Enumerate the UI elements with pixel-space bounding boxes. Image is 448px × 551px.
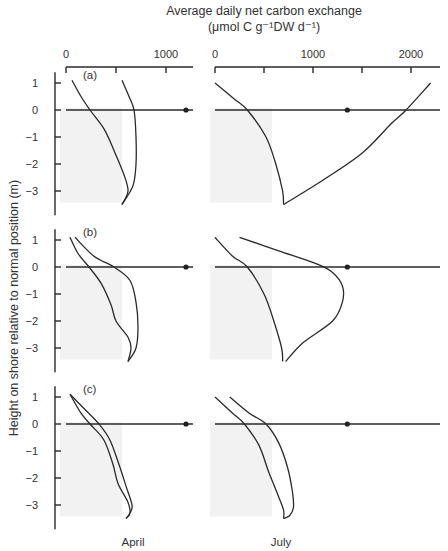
y-tick-label: −3: [25, 342, 38, 354]
y-tick-label: −1: [25, 131, 38, 143]
marker-dot: [345, 107, 350, 112]
marker-dot: [345, 421, 350, 426]
marker-dot: [183, 107, 188, 112]
marker-dot: [183, 264, 188, 269]
panel-a: 10−1−2−3(a): [25, 69, 440, 215]
shaded-region: [60, 108, 122, 203]
shaded-region: [210, 265, 272, 360]
column-label-july: July: [271, 536, 292, 548]
y-tick-label: −2: [25, 158, 38, 170]
marker-dot: [183, 421, 188, 426]
y-tick-label: 0: [32, 418, 38, 430]
x-tick-label: 0: [212, 48, 218, 60]
y-tick-label: 1: [32, 77, 38, 89]
x-tick-label: 1000: [301, 48, 325, 60]
y-tick-label: −3: [25, 499, 38, 511]
panel-label: (c): [83, 383, 97, 395]
marker-dot: [345, 264, 350, 269]
y-tick-label: 1: [32, 391, 38, 403]
chart-canvas: Height on shore relative to normal posit…: [0, 0, 448, 551]
x-tick-label: 1000: [154, 48, 178, 60]
shaded-region: [60, 422, 122, 517]
shaded-region: [210, 422, 272, 517]
panel-label: (a): [83, 69, 97, 81]
panel-label: (b): [83, 226, 97, 238]
panel-b: 10−1−2−3(b): [25, 226, 440, 372]
april-outer-curve: [122, 80, 136, 204]
y-tick-label: −1: [25, 445, 38, 457]
shaded-region: [210, 108, 272, 203]
y-tick-label: −1: [25, 288, 38, 300]
x-axis-july: 0 1000 2000: [212, 48, 440, 73]
y-tick-label: 0: [32, 261, 38, 273]
y-tick-label: −2: [25, 472, 38, 484]
y-tick-label: −3: [25, 185, 38, 197]
y-tick-label: −2: [25, 315, 38, 327]
y-tick-label: 1: [32, 234, 38, 246]
y-tick-label: 0: [32, 104, 38, 116]
x-tick-label: 2000: [399, 48, 423, 60]
column-label-april: April: [121, 536, 144, 548]
y-axis-label: Height on shore relative to normal posit…: [7, 180, 21, 436]
july-outer-curve: [284, 83, 431, 205]
x-tick-label: 0: [63, 48, 69, 60]
panel-c: 10−1−2−3(c): [25, 383, 440, 529]
